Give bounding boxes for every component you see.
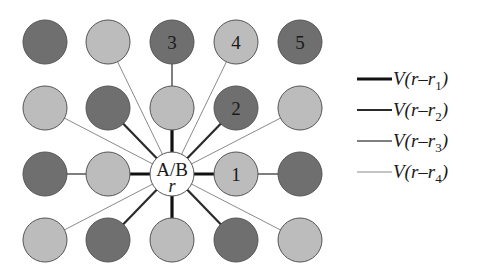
lattice-site — [23, 152, 67, 196]
site-circle-dark — [214, 218, 258, 262]
lattice-site — [23, 20, 67, 64]
legend: V(r–r1)V(r–r2)V(r–r3)V(r–r4) — [357, 68, 448, 186]
site-circle-dark — [86, 86, 130, 130]
lattice-site: 4 — [214, 20, 258, 64]
center-site: A/B r — [150, 152, 194, 196]
site-number-label: 4 — [231, 32, 241, 53]
legend-label: V(r–r2) — [393, 99, 448, 124]
lattice-site — [86, 86, 130, 130]
lattice-site — [278, 218, 322, 262]
lattice-site — [278, 86, 322, 130]
center-site-position-label: r — [168, 176, 176, 196]
legend-item-r3: V(r–r3) — [357, 130, 448, 155]
legend-label: V(r–r4) — [393, 161, 448, 186]
legend-item-r2: V(r–r2) — [357, 99, 448, 124]
site-circle-light — [278, 218, 322, 262]
legend-item-r4: V(r–r4) — [357, 161, 448, 186]
site-number-label: 5 — [295, 32, 305, 53]
legend-label: V(r–r3) — [393, 130, 448, 155]
lattice-site — [86, 152, 130, 196]
site-number-label: 3 — [167, 32, 177, 53]
lattice-diagram: 34521 A/B r V(r–r1)V(r–r2)V(r–r3)V(r–r4) — [0, 0, 478, 278]
site-circle-dark — [278, 152, 322, 196]
site-number-label: 2 — [231, 98, 241, 119]
site-circle-light — [23, 86, 67, 130]
bond-lines — [45, 42, 300, 240]
lattice-site — [23, 86, 67, 130]
lattice-site — [278, 152, 322, 196]
site-circle-dark — [86, 218, 130, 262]
lattice-site — [23, 218, 67, 262]
site-circle-light — [150, 218, 194, 262]
lattice-site — [214, 218, 258, 262]
site-circle-light — [278, 86, 322, 130]
site-circle-dark — [23, 152, 67, 196]
lattice-site — [150, 86, 194, 130]
lattice-site — [86, 20, 130, 64]
lattice-site — [86, 218, 130, 262]
site-number-label: 1 — [231, 164, 241, 185]
site-circle-dark — [23, 20, 67, 64]
lattice-site: 2 — [214, 86, 258, 130]
site-circle-light — [86, 20, 130, 64]
lattice-site: 3 — [150, 20, 194, 64]
lattice-site: 1 — [214, 152, 258, 196]
lattice-site: 5 — [278, 20, 322, 64]
site-circle-light — [150, 86, 194, 130]
lattice-site — [150, 218, 194, 262]
site-circle-light — [23, 218, 67, 262]
legend-item-r1: V(r–r1) — [357, 68, 448, 93]
legend-label: V(r–r1) — [393, 68, 448, 93]
site-circle-light — [86, 152, 130, 196]
